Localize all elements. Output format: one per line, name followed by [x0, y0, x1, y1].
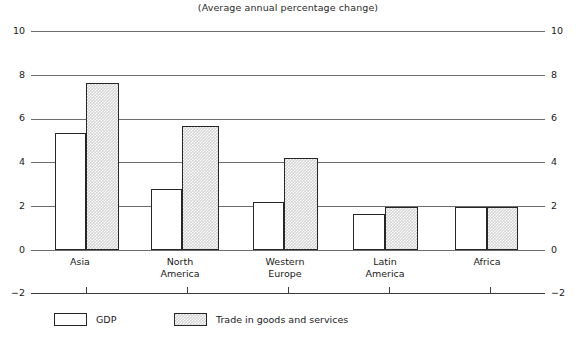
ytick-left-6: 6 [19, 113, 25, 123]
category-label-africa: Africa [442, 256, 532, 268]
legend-label-gdp: GDP [96, 314, 116, 325]
bar-gdp-latin-america[interactable] [353, 214, 385, 250]
category-label-western-europe: Western Europe [240, 256, 330, 279]
ytick-right-0: 0 [551, 245, 557, 255]
gridline-0 [31, 250, 545, 251]
ytick-right-10: 10 [551, 26, 563, 36]
axis-tick-western-europe [288, 287, 289, 293]
ytick-left-10: 10 [13, 26, 25, 36]
chart-legend: GDP Trade in goods and services [0, 313, 576, 333]
legend-swatch-trade [174, 313, 207, 326]
ytick-left-4: 4 [19, 157, 25, 167]
axis-bottom-line [31, 293, 545, 294]
bar-trade-asia[interactable] [86, 83, 119, 251]
bar-gdp-africa[interactable] [455, 207, 487, 250]
axis-tick-latin-america [389, 287, 390, 293]
ytick-right-6: 6 [551, 113, 557, 123]
axis-tick-asia [86, 287, 87, 293]
legend-swatch-gdp [54, 313, 87, 326]
bar-gdp-north-america[interactable] [151, 189, 182, 250]
ytick-left-minus2: −2 [11, 288, 25, 298]
chart-subtitle: (Average annual percentage change) [0, 2, 576, 13]
axis-tick-north-america [187, 287, 188, 293]
bar-trade-latin-america[interactable] [385, 207, 418, 250]
axis-tick-africa [490, 287, 491, 293]
bar-trade-north-america[interactable] [182, 126, 219, 250]
bar-gdp-asia[interactable] [55, 133, 86, 250]
bar-series-group [31, 31, 545, 250]
bar-trade-western-europe[interactable] [284, 158, 318, 250]
category-label-latin-america: Latin America [340, 256, 430, 279]
legend-item-trade[interactable]: Trade in goods and services [174, 313, 348, 326]
chart-container: (Average annual percentage change) 10 8 … [0, 0, 576, 338]
ytick-right-8: 8 [551, 70, 557, 80]
ytick-right-2: 2 [551, 201, 557, 211]
category-label-asia: Asia [35, 256, 125, 268]
ytick-left-2: 2 [19, 201, 25, 211]
legend-label-trade: Trade in goods and services [216, 314, 348, 325]
ytick-left-0: 0 [19, 245, 25, 255]
bar-gdp-western-europe[interactable] [253, 202, 284, 250]
ytick-right-4: 4 [551, 157, 557, 167]
ytick-right-minus2: −2 [551, 288, 565, 298]
bar-trade-africa[interactable] [487, 207, 518, 250]
legend-item-gdp[interactable]: GDP [54, 313, 116, 326]
ytick-left-8: 8 [19, 70, 25, 80]
category-label-north-america: North America [135, 256, 225, 279]
